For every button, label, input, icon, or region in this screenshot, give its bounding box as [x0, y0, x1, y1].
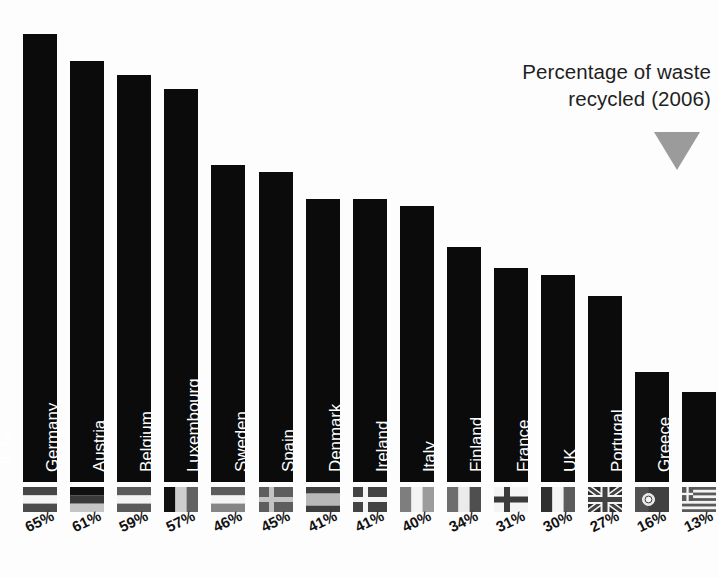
- bar-label-france: France: [507, 438, 541, 472]
- italy-flag: [447, 487, 481, 512]
- bar-chart-plot: Netherlands65%Germany61%Austria59%Belgiu…: [0, 0, 719, 578]
- bar-label-italy: Italy: [413, 438, 447, 472]
- bar-label-germany: Germany: [36, 438, 70, 472]
- finland-flag: [494, 487, 528, 512]
- bar-label-ireland: Ireland: [366, 438, 400, 472]
- germany-flag: [70, 487, 104, 512]
- bar-label-spain: Spain: [272, 438, 306, 472]
- bar-label-finland: Finland: [460, 438, 494, 472]
- france-flag: [541, 487, 575, 512]
- greece-flag: [682, 487, 716, 512]
- bar-label-sweden: Sweden: [225, 438, 259, 472]
- bar-greece[interactable]: Greece: [682, 392, 716, 482]
- uk-flag: [588, 487, 622, 512]
- luxembourg-flag: [211, 487, 245, 512]
- bar-label-belgium: Belgium: [130, 438, 164, 472]
- ireland-flag: [400, 487, 434, 512]
- bar-label-netherlands: Netherlands: [0, 438, 23, 472]
- belgium-flag: [164, 487, 198, 512]
- bar-label-denmark: Denmark: [319, 438, 353, 472]
- bar-label-greece: Greece: [648, 438, 682, 472]
- bar-label-austria: Austria: [83, 438, 117, 472]
- bar-germany[interactable]: Germany: [70, 61, 104, 482]
- denmark-flag: [353, 487, 387, 512]
- bar-label-uk: UK: [554, 438, 588, 472]
- austria-flag: [117, 487, 151, 512]
- chart-page: Percentage of waste recycled (2006) Neth…: [0, 0, 719, 578]
- netherlands-flag: [23, 487, 57, 512]
- portugal-flag: [635, 487, 669, 512]
- bar-label-portugal: Portugal: [601, 438, 635, 472]
- sweden-flag: [259, 487, 293, 512]
- bar-label-luxembourg: Luxembourg: [177, 438, 211, 472]
- spain-flag: [306, 487, 340, 512]
